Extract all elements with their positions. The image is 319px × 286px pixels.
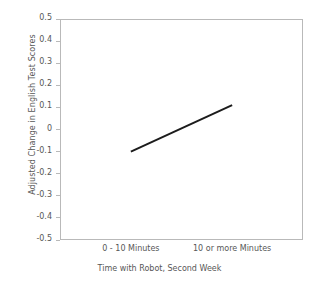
x-axis-title: Time with Robot, Second Week [0, 264, 319, 273]
x-category-label-1: 10 or more Minutes [193, 244, 271, 253]
y-tick-mark [56, 217, 60, 218]
y-tick-label: -0.3 [36, 190, 52, 199]
y-tick-mark [56, 173, 60, 174]
x-category-label-0: 0 - 10 Minutes [102, 244, 159, 253]
y-tick-label: -0.2 [36, 168, 52, 177]
y-tick-mark [56, 129, 60, 130]
y-tick-mark [56, 19, 60, 20]
y-tick-label: 0.4 [39, 35, 52, 44]
y-tick-label: -0.1 [36, 146, 52, 155]
y-tick-mark [56, 41, 60, 42]
y-tick-label: 0.1 [39, 101, 52, 110]
plot-area [60, 19, 303, 240]
y-tick-mark [56, 107, 60, 108]
y-tick-label: -0.5 [36, 234, 52, 243]
y-tick-mark [56, 151, 60, 152]
y-tick-label: 0.3 [39, 57, 52, 66]
y-axis-title: Adjusted Change in English Test Scores [28, 0, 37, 235]
y-tick-mark [56, 63, 60, 64]
y-tick-label: -0.4 [36, 212, 52, 221]
y-tick-mark [56, 240, 60, 241]
y-tick-mark [56, 195, 60, 196]
y-tick-label: 0.2 [39, 79, 52, 88]
y-tick-label: 0 [47, 124, 52, 133]
y-tick-mark [56, 85, 60, 86]
y-tick-label: 0.5 [39, 13, 52, 22]
chart-figure: Adjusted Change in English Test Scores 0… [0, 0, 319, 286]
